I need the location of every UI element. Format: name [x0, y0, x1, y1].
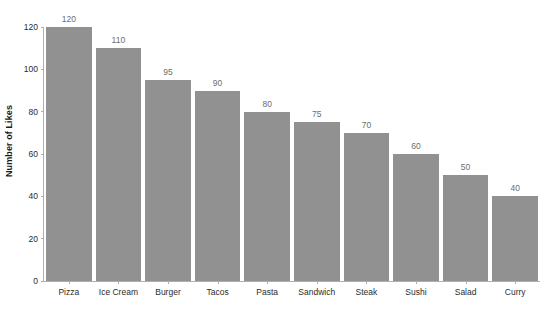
bar[interactable] [294, 122, 340, 281]
x-axis-tick-label: Tacos [193, 287, 243, 297]
y-axis-tick-label: 20 [29, 234, 39, 244]
bar-value-label: 40 [490, 183, 540, 193]
x-axis-tick-mark [317, 281, 318, 284]
y-axis-tick-label: 100 [24, 64, 39, 74]
y-axis-tick: 100 [24, 64, 44, 74]
bar[interactable] [46, 27, 92, 281]
bar[interactable] [443, 175, 489, 281]
bar-value-label: 120 [44, 14, 94, 24]
bar-value-label: 95 [143, 67, 193, 77]
y-axis-tick-label: 60 [29, 149, 39, 159]
y-axis-tick: 20 [29, 234, 44, 244]
x-axis-tick-mark [267, 281, 268, 284]
x-axis-tick-mark [515, 281, 516, 284]
bar-value-label: 110 [94, 35, 144, 45]
x-axis-tick-label: Steak [342, 287, 392, 297]
y-axis-title-label: Number of Likes [4, 105, 14, 177]
bar-value-label: 75 [292, 109, 342, 119]
y-axis-tick-label: 120 [24, 22, 39, 32]
bar[interactable] [344, 133, 390, 281]
y-axis-tick-label: 40 [29, 191, 39, 201]
bar[interactable] [145, 80, 191, 281]
bar-group[interactable]: 95 [143, 27, 193, 281]
bar[interactable] [96, 48, 142, 281]
bar[interactable] [244, 112, 290, 281]
bar-group[interactable]: 70 [342, 27, 392, 281]
x-axis-tick-mark [416, 281, 417, 284]
y-axis-tick: 120 [24, 22, 44, 32]
bar-value-label: 90 [193, 78, 243, 88]
y-axis-title: Number of Likes [0, 0, 18, 282]
x-axis-tick-mark [118, 281, 119, 284]
bar-group[interactable]: 80 [242, 27, 292, 281]
y-axis-tick: 0 [33, 276, 44, 286]
x-axis-tick-mark [69, 281, 70, 284]
y-axis-tick-label: 80 [29, 107, 39, 117]
bar-value-label: 70 [342, 120, 392, 130]
x-axis-tick-label: Sandwich [292, 287, 342, 297]
bar[interactable] [492, 196, 538, 281]
bar-group[interactable]: 50 [441, 27, 491, 281]
bar-group[interactable]: 120 [44, 27, 94, 281]
x-axis-tick-label: Sushi [391, 287, 441, 297]
bar[interactable] [393, 154, 439, 281]
x-axis-tick-label: Pizza [44, 287, 94, 297]
x-axis-tick-label: Curry [490, 287, 540, 297]
bar-group[interactable]: 60 [391, 27, 441, 281]
x-axis-tick-label: Pasta [242, 287, 292, 297]
x-axis-ticks: PizzaIce CreamBurgerTacosPastaSandwichSt… [44, 281, 540, 316]
x-axis-tick-label: Burger [143, 287, 193, 297]
plot-area: 020406080100120 1201109590807570605040 P… [44, 27, 540, 281]
y-axis-tick: 80 [29, 107, 44, 117]
y-axis-tick: 60 [29, 149, 44, 159]
bars-layer: 1201109590807570605040 [44, 27, 540, 281]
x-axis-tick-mark [218, 281, 219, 284]
bar-group[interactable]: 90 [193, 27, 243, 281]
x-axis-tick-label: Salad [441, 287, 491, 297]
bar-value-label: 80 [242, 99, 292, 109]
x-axis-tick-label: Ice Cream [94, 287, 144, 297]
bar-value-label: 50 [441, 162, 491, 172]
x-axis-tick-mark [168, 281, 169, 284]
bar-group[interactable]: 40 [490, 27, 540, 281]
bar-value-label: 60 [391, 141, 441, 151]
bar-group[interactable]: 110 [94, 27, 144, 281]
bar[interactable] [195, 91, 241, 282]
x-axis-tick-mark [366, 281, 367, 284]
y-axis-tick-label: 0 [33, 276, 39, 286]
x-axis-tick-mark [466, 281, 467, 284]
y-axis-tick: 40 [29, 191, 44, 201]
bar-group[interactable]: 75 [292, 27, 342, 281]
bar-chart-figure: Number of Likes 020406080100120 12011095… [0, 0, 552, 316]
